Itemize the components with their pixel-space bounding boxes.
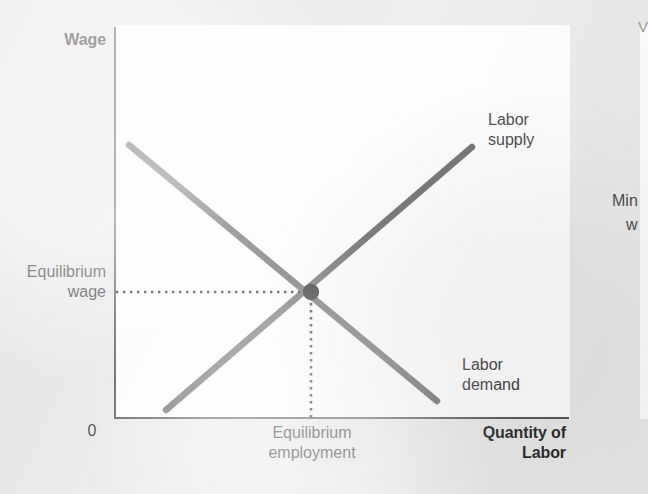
origin-label: 0 <box>80 421 104 441</box>
adjacent-figure-minimum-text: Min <box>612 192 638 210</box>
y-axis-title: Wage <box>48 30 106 50</box>
equilibrium-wage-label: Equilibrium wage <box>6 262 106 302</box>
labor-demand-curve <box>129 145 437 401</box>
labor-supply-label: Labor supply <box>488 110 578 150</box>
figure-canvas: Wage Equilibrium wage 0 Equilibrium empl… <box>0 0 648 494</box>
labor-demand-label: Labor demand <box>462 355 557 395</box>
equilibrium-point-marker <box>303 284 319 300</box>
adjacent-figure-wage-text: w <box>626 216 638 234</box>
equilibrium-employment-label: Equilibrium employment <box>236 423 388 463</box>
chart-curves <box>0 0 648 494</box>
adjacent-figure-top-fragment: V <box>638 18 648 35</box>
x-axis-title: Quantity of Labor <box>410 423 566 463</box>
labor-supply-curve <box>166 147 472 410</box>
